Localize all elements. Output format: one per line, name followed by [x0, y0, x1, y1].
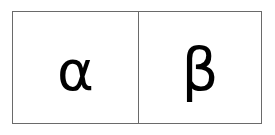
alpha-symbol: α: [57, 43, 94, 99]
beta-symbol: β: [181, 41, 218, 99]
two-cell-box: α β: [12, 11, 262, 124]
cell-beta: β: [139, 12, 261, 123]
cell-alpha: α: [13, 12, 139, 123]
